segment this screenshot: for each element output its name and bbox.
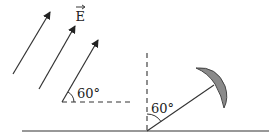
diagram-canvas: E 60° 60° <box>0 0 269 140</box>
field-label: E <box>76 5 86 24</box>
field-arrow-2 <box>39 26 75 89</box>
curved-mirror <box>196 68 227 108</box>
field-angle-arc <box>68 92 74 102</box>
field-angle-label: 60° <box>77 86 100 101</box>
mirror-angle-label: 60° <box>151 101 174 116</box>
field-arrow-1 <box>13 12 50 74</box>
field-label-text: E <box>76 9 86 24</box>
